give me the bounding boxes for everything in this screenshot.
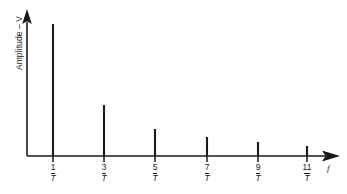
spectral-lines xyxy=(53,24,307,156)
spectrum-figure: Amplitude – V 1 T 3 T 5 T 7 T 9 xyxy=(0,0,347,194)
tick-label-7-numerator: 7 xyxy=(203,163,210,172)
tick-label-1-numerator: 1 xyxy=(49,163,56,172)
tick-label-1: 1 T xyxy=(40,163,66,183)
tick-label-5-denominator: T xyxy=(151,174,158,183)
x-axis-ticks xyxy=(53,152,307,162)
tick-label-11-numerator: 11 xyxy=(302,163,313,172)
tick-label-9-numerator: 9 xyxy=(254,163,261,172)
tick-label-3: 3 T xyxy=(91,163,117,183)
tick-label-11: 11 T xyxy=(294,163,320,183)
tick-label-5-numerator: 5 xyxy=(151,163,158,172)
tick-label-11-denominator: T xyxy=(302,174,313,183)
tick-label-9-denominator: T xyxy=(254,174,261,183)
x-axis-label: f xyxy=(327,163,330,173)
y-axis-label: Amplitude – V xyxy=(14,0,24,98)
tick-label-7-denominator: T xyxy=(203,174,210,183)
tick-label-3-denominator: T xyxy=(100,174,107,183)
tick-label-1-denominator: T xyxy=(49,174,56,183)
tick-label-5: 5 T xyxy=(142,163,168,183)
tick-label-9: 9 T xyxy=(245,163,271,183)
tick-label-3-numerator: 3 xyxy=(100,163,107,172)
tick-label-7: 7 T xyxy=(194,163,220,183)
